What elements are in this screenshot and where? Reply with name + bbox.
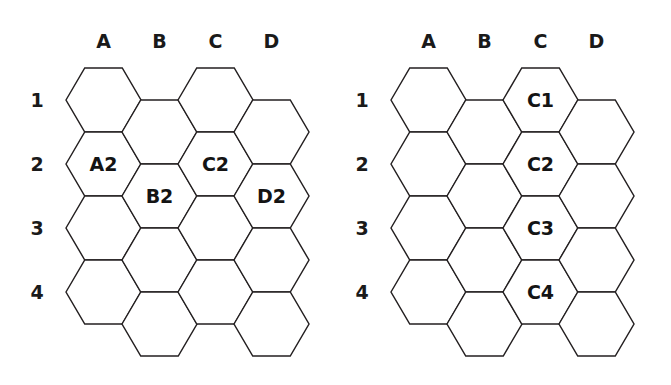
row-header-2: 2 — [30, 153, 43, 175]
row-header-group: 1234 — [355, 89, 368, 303]
column-header-group: ABCD — [421, 30, 604, 52]
hex-cell-label: C1 — [527, 89, 554, 111]
row-header-4: 4 — [30, 281, 43, 303]
row-header-1: 1 — [355, 89, 368, 111]
hex-grid-right-canvas: C1C2C3C4ABCD1234 — [335, 0, 670, 385]
column-header-a: A — [421, 30, 436, 52]
hex-cell-label: C4 — [527, 281, 554, 303]
column-header-c: C — [209, 30, 223, 52]
hex-cell-label: A2 — [90, 153, 118, 175]
row-header-1: 1 — [30, 89, 43, 111]
hex-grid-left-figure: A2B2C2D2ABCD1234 — [0, 0, 335, 385]
column-header-b: B — [152, 30, 166, 52]
hex-cell-group: C1C2C3C4 — [391, 68, 634, 356]
hex-cell-label: B2 — [146, 185, 174, 207]
column-header-d: D — [589, 30, 605, 52]
column-header-group: ABCD — [96, 30, 279, 52]
hex-cell-group: A2B2C2D2 — [66, 68, 309, 356]
row-header-3: 3 — [30, 217, 43, 239]
column-header-c: C — [534, 30, 548, 52]
hexagon-figure-pair: A2B2C2D2ABCD1234 C1C2C3C4ABCD1234 — [0, 0, 671, 385]
column-header-a: A — [96, 30, 111, 52]
row-header-3: 3 — [355, 217, 368, 239]
hex-grid-right-figure: C1C2C3C4ABCD1234 — [335, 0, 670, 385]
hex-cell-label: C3 — [527, 217, 554, 239]
row-header-group: 1234 — [30, 89, 43, 303]
row-header-4: 4 — [355, 281, 368, 303]
hex-cell-label: D2 — [257, 185, 286, 207]
hex-cell-label: C2 — [527, 153, 554, 175]
row-header-2: 2 — [355, 153, 368, 175]
column-header-b: B — [477, 30, 491, 52]
hex-grid-left-canvas: A2B2C2D2ABCD1234 — [0, 0, 335, 385]
hex-cell-label: C2 — [202, 153, 229, 175]
column-header-d: D — [264, 30, 280, 52]
